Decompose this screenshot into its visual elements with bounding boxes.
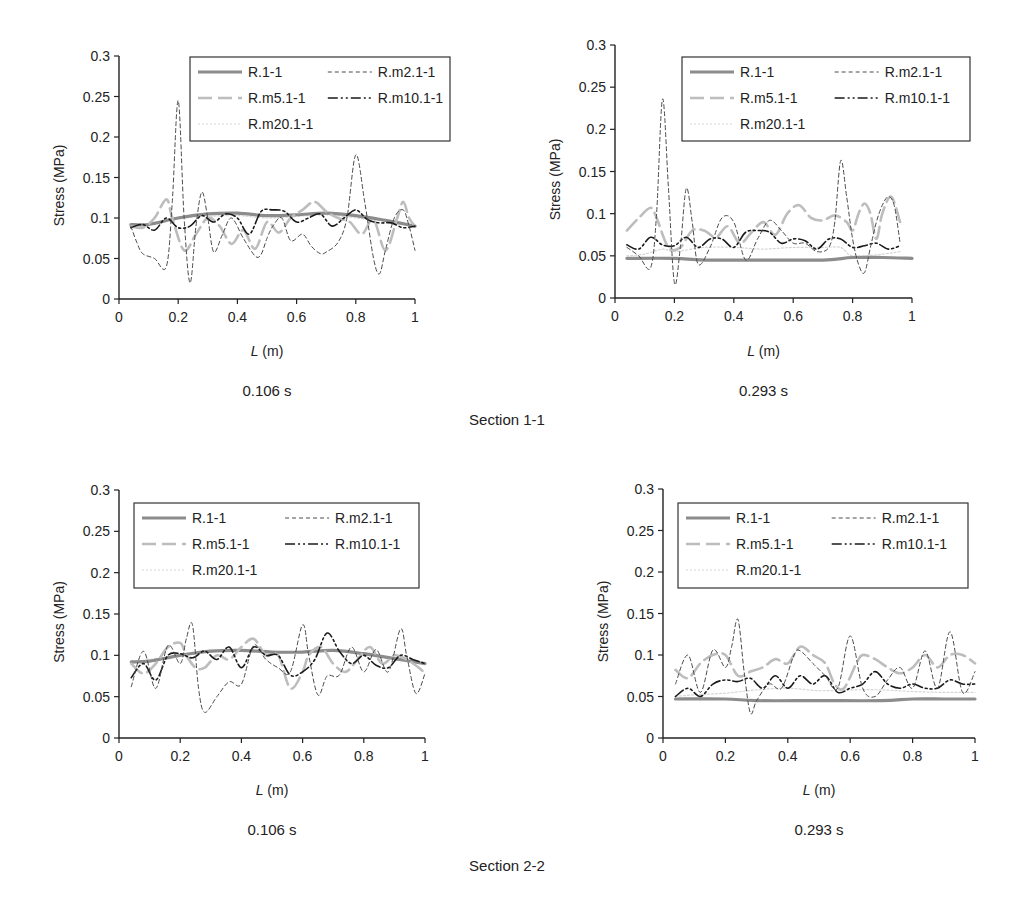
x-tick-label: 0.4 bbox=[778, 748, 798, 764]
y-axis-title: Stress (MPa) bbox=[595, 581, 611, 663]
panel-caption-time: 0.106 s bbox=[207, 382, 327, 399]
series-line-rm5 bbox=[675, 647, 975, 690]
legend-label-rm2: R.m2.1-1 bbox=[882, 510, 940, 526]
y-tick-label: 0.25 bbox=[627, 523, 654, 539]
section-title-2: Section 2-2 bbox=[407, 857, 607, 874]
legend-label-rm10: R.m10.1-1 bbox=[882, 536, 948, 552]
panel-caption-time: 0.293 s bbox=[759, 821, 879, 838]
y-tick-label: 0.15 bbox=[627, 606, 654, 622]
x-tick-label: 1 bbox=[971, 748, 979, 764]
y-tick-label: 0.05 bbox=[627, 689, 654, 705]
x-tick-label: 0.2 bbox=[716, 748, 736, 764]
y-tick-label: 0.1 bbox=[635, 647, 655, 663]
chart-svg: 00.050.10.150.20.250.300.20.40.60.81Stre… bbox=[0, 0, 1015, 908]
legend-label-rm20: R.m20.1-1 bbox=[736, 562, 802, 578]
section-title-1: Section 1-1 bbox=[407, 411, 607, 428]
x-axis-title: L (m) bbox=[803, 782, 836, 798]
y-tick-label: 0 bbox=[646, 730, 654, 746]
legend: R.1-1R.m2.1-1R.m5.1-1R.m10.1-1R.m20.1-1 bbox=[678, 503, 968, 588]
x-tick-label: 0.6 bbox=[840, 748, 860, 764]
y-tick-label: 0.2 bbox=[635, 564, 655, 580]
legend-label-rm5: R.m5.1-1 bbox=[736, 536, 794, 552]
panel-caption-time: 0.106 s bbox=[212, 821, 332, 838]
legend-label-r1: R.1-1 bbox=[736, 510, 770, 526]
x-tick-label: 0 bbox=[659, 748, 667, 764]
y-tick-label: 0.3 bbox=[635, 481, 655, 497]
panel-caption-time: 0.293 s bbox=[704, 382, 824, 399]
x-tick-label: 0.8 bbox=[903, 748, 923, 764]
series-line-r1 bbox=[675, 699, 975, 701]
series-group bbox=[675, 619, 975, 714]
